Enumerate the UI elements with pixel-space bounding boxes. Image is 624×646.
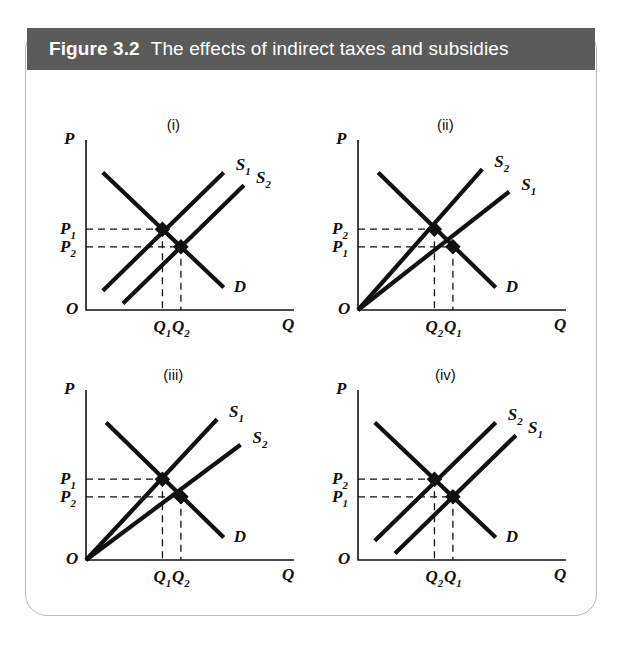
curve-label-D: D (233, 277, 246, 296)
plot-(ii): (ii)PQOS2S1DP2Q2P1Q1 (330, 112, 580, 342)
axes (358, 390, 566, 560)
panel-label: (iv) (435, 366, 456, 383)
x-axis-label: Q (554, 315, 566, 334)
y-axis-label: P (63, 129, 75, 148)
x-axis-label: Q (554, 565, 566, 584)
curve-label-S2: S2 (494, 152, 509, 174)
panel-label: (iii) (163, 366, 183, 383)
origin-label: O (338, 299, 350, 318)
y-axis-label: P (335, 379, 347, 398)
curve-label-D: D (505, 277, 518, 296)
figure-number: Figure 3.2 (49, 38, 140, 60)
curve-S2 (86, 445, 241, 560)
x-axis-label: Q (282, 315, 294, 334)
curve-label-D: D (505, 527, 518, 546)
curve-label-S1: S1 (528, 418, 543, 440)
origin-label: O (338, 549, 350, 568)
curve-label-D: D (233, 527, 246, 546)
curve-S1 (86, 419, 217, 560)
qty-label-E2: Q2 (426, 567, 444, 589)
qty-label-E1: Q1 (444, 317, 462, 339)
panel-i: (i)PQOS1S2DP1Q1P2Q2 (58, 112, 308, 342)
curve-S1 (358, 192, 509, 310)
origin-label: O (66, 549, 78, 568)
qty-label-E1: Q1 (444, 567, 462, 589)
plot-(i): (i)PQOS1S2DP1Q1P2Q2 (58, 112, 308, 342)
plot-(iv): (iv)PQOS2S1DP2Q2P1Q1 (330, 362, 580, 592)
curve-label-S2: S2 (253, 428, 268, 450)
qty-label-E2: Q2 (426, 317, 444, 339)
curve-label-S1: S1 (521, 175, 536, 197)
origin-label: O (66, 299, 78, 318)
axes (86, 140, 294, 310)
panel-iii: (iii)PQOS1S2DP1Q1P2Q2 (58, 362, 308, 592)
curve-label-S2: S2 (256, 168, 271, 190)
qty-label-E2: Q2 (172, 317, 190, 339)
panel-iv: (iv)PQOS2S1DP2Q2P1Q1 (330, 362, 580, 592)
y-axis-label: P (335, 129, 347, 148)
qty-label-E1: Q1 (154, 317, 172, 339)
curve-label-S1: S1 (236, 155, 251, 177)
panel-ii: (ii)PQOS2S1DP2Q2P1Q1 (330, 112, 580, 342)
panel-label: (i) (167, 116, 180, 133)
curve-label-S1: S1 (229, 402, 244, 424)
curve-S2 (358, 169, 482, 310)
figure-header: Figure 3.2 The effects of indirect taxes… (27, 28, 595, 70)
y-axis-label: P (63, 379, 75, 398)
x-axis-label: Q (282, 565, 294, 584)
figure-title: The effects of indirect taxes and subsid… (151, 38, 509, 60)
qty-label-E1: Q1 (154, 567, 172, 589)
panel-label: (ii) (437, 116, 454, 133)
curve-label-S2: S2 (508, 405, 523, 427)
plot-(iii): (iii)PQOS1S2DP1Q1P2Q2 (58, 362, 308, 592)
qty-label-E2: Q2 (172, 567, 190, 589)
